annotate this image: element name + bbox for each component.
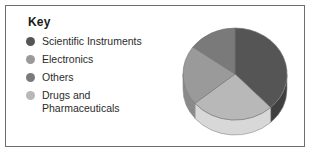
figure-frame: Key Scientific Instruments Electronics O… [5, 5, 305, 147]
legend-bullet-icon [26, 55, 35, 64]
legend-item-electronics: Electronics [26, 53, 186, 66]
legend-item-others: Others [26, 71, 186, 84]
legend-item-label: Scientific Instruments [42, 35, 142, 48]
pie-top-face [183, 28, 287, 120]
legend-bullet-icon [26, 37, 35, 46]
legend-item-drugs-and-pharmaceuticals: Drugs and Pharmaceuticals [26, 89, 186, 115]
legend-item-label: Drugs and Pharmaceuticals [42, 89, 120, 115]
pie-chart [181, 20, 301, 140]
legend: Key Scientific Instruments Electronics O… [26, 15, 186, 120]
legend-item-label: Electronics [42, 53, 93, 66]
pie-chart-svg [181, 20, 301, 140]
legend-item-scientific-instruments: Scientific Instruments [26, 35, 186, 48]
legend-title: Key [28, 15, 186, 29]
legend-bullet-icon [26, 73, 35, 82]
legend-item-label: Others [42, 71, 74, 84]
legend-bullet-icon [26, 91, 35, 100]
